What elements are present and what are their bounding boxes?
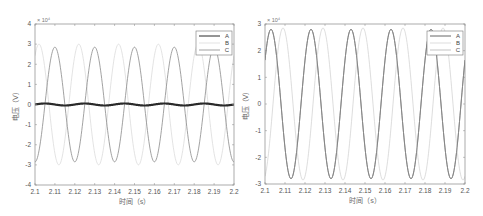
x-tick-label: 2.17 (399, 187, 412, 194)
legend-entry-c: C (456, 47, 461, 53)
x-tick-label: 2.13 (319, 187, 332, 194)
y-tick-label: 0 (27, 101, 31, 108)
y-tick-label: -1 (25, 121, 31, 128)
x-tick-label: 2.2 (460, 187, 469, 194)
y-tick-label: 1 (27, 81, 31, 88)
y-tick-label: -4 (25, 181, 31, 188)
x-tick-label: 2.12 (299, 187, 312, 194)
x-tick-label: 2.15 (359, 187, 372, 194)
legend-entry-a: A (225, 33, 229, 39)
legend-entry-b: B (225, 40, 229, 46)
legend: ABC (427, 31, 463, 55)
y-tick-label: 4 (27, 20, 31, 27)
x-tick-label: 2.1 (260, 187, 269, 194)
x-axis-label: 时间（s） (119, 197, 151, 206)
x-tick-label: 2.11 (279, 187, 292, 194)
x-tick-label: 2.19 (439, 187, 452, 194)
y-tick-label: 2 (257, 47, 261, 54)
plot-area (35, 44, 234, 165)
x-tick-label: 2.15 (128, 188, 141, 195)
y-tick-label: 3 (257, 20, 261, 27)
x-tick-label: 2.12 (68, 188, 81, 195)
y-axis-label: 电压（V） (11, 88, 20, 121)
y-exponent-label: × 10⁴ (267, 17, 281, 23)
x-tick-label: 2.18 (188, 188, 201, 195)
y-tick-label: -2 (255, 154, 261, 161)
x-tick-label: 2.11 (49, 188, 62, 195)
x-tick-label: 2.19 (208, 188, 221, 195)
y-tick-label: -3 (25, 161, 31, 168)
x-tick-label: 2.17 (168, 188, 181, 195)
y-tick-label: 0 (257, 100, 261, 107)
y-tick-label: 3 (27, 40, 31, 47)
left-voltage-chart: 2.12.112.122.132.142.152.162.172.182.192… (0, 0, 241, 216)
legend: ABC (196, 31, 232, 55)
y-tick-label: -3 (255, 180, 261, 187)
y-tick-label: -2 (25, 141, 31, 148)
x-tick-label: 2.16 (379, 187, 392, 194)
x-tick-label: 2.13 (88, 188, 101, 195)
x-axis-label: 时间（s） (349, 196, 381, 205)
chart-canvas: 2.12.112.122.132.142.152.162.172.182.192… (241, 0, 482, 216)
x-tick-label: 2.18 (419, 187, 432, 194)
y-tick-label: 1 (257, 74, 261, 81)
chart-canvas: 2.12.112.122.132.142.152.162.172.182.192… (0, 0, 241, 216)
legend-entry-a: A (456, 33, 460, 39)
y-tick-label: -1 (255, 127, 261, 134)
y-tick-label: 2 (27, 61, 31, 68)
right-voltage-chart: 2.12.112.122.132.142.152.162.172.182.192… (241, 0, 482, 216)
x-tick-label: 2.16 (148, 188, 161, 195)
x-tick-label: 2.2 (229, 188, 238, 195)
x-tick-label: 2.1 (30, 188, 39, 195)
y-exponent-label: × 10⁴ (37, 17, 51, 23)
x-tick-label: 2.14 (108, 188, 121, 195)
legend-entry-c: C (225, 47, 230, 53)
legend-entry-b: B (456, 40, 460, 46)
x-tick-label: 2.14 (339, 187, 352, 194)
y-axis-label: 电压（V） (241, 88, 250, 121)
